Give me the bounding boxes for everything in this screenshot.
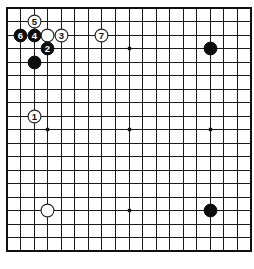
move-number-label: 7 xyxy=(99,30,104,41)
black-stone xyxy=(204,204,217,217)
white-stone-circle xyxy=(41,29,54,42)
black-stone xyxy=(204,42,217,55)
white-stone-move-3: 3 xyxy=(55,29,68,42)
move-number-label: 6 xyxy=(18,30,23,41)
star-point xyxy=(209,128,213,132)
black-stone-circle xyxy=(204,42,217,55)
move-number-label: 4 xyxy=(32,30,38,41)
white-stone-move-7: 7 xyxy=(95,29,108,42)
star-point xyxy=(128,209,132,213)
white-stone xyxy=(41,204,54,217)
black-stone-move-6: 6 xyxy=(14,29,27,42)
black-stone-circle xyxy=(28,56,41,69)
go-board-diagram: 1234567 xyxy=(0,0,254,269)
black-stone-move-2: 2 xyxy=(41,42,54,55)
move-number-label: 5 xyxy=(32,16,38,27)
star-point xyxy=(46,128,50,132)
black-stone-circle xyxy=(204,204,217,217)
black-stone-move-4: 4 xyxy=(28,29,41,42)
white-stone-move-1: 1 xyxy=(28,110,41,123)
move-number-label: 1 xyxy=(32,111,38,122)
white-stone xyxy=(41,29,54,42)
go-board: 1234567 xyxy=(0,0,254,269)
move-number-label: 2 xyxy=(45,43,50,54)
white-stone-move-5: 5 xyxy=(28,15,41,28)
star-point xyxy=(128,47,132,51)
black-stone xyxy=(28,56,41,69)
star-point xyxy=(128,128,132,132)
white-stone-circle xyxy=(41,204,54,217)
move-number-label: 3 xyxy=(59,30,64,41)
